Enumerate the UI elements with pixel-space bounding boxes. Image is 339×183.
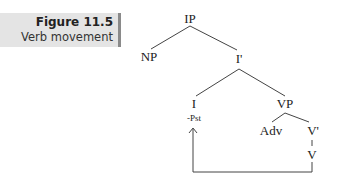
node-adv: Adv: [260, 123, 283, 138]
node-v: V: [307, 147, 317, 162]
node-vbar: V': [307, 123, 319, 138]
movement-arrow-line: [193, 129, 312, 172]
node-np: NP: [141, 49, 158, 64]
node-i: I: [192, 96, 196, 111]
node-vp: VP: [277, 96, 294, 111]
node-ip: IP: [184, 11, 196, 26]
branch-ibar-vp: [239, 69, 285, 96]
node-ibar: I': [236, 51, 243, 66]
branch-ip-np: [151, 26, 190, 49]
branch-vp-adv: [272, 113, 285, 122]
branch-ip-ibar: [190, 26, 237, 50]
node-i-feature: -Pst: [187, 113, 202, 123]
branch-ibar-i: [196, 69, 239, 96]
syntax-tree: IP NP I' I -Pst VP Adv V' V: [0, 0, 339, 183]
branch-vp-vbar: [285, 113, 309, 122]
